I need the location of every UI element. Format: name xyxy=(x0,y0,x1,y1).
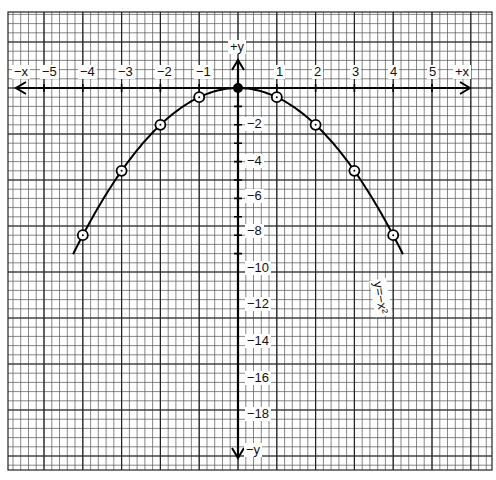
x-tick-label: −3 xyxy=(116,65,135,79)
pos-y-axis-label: +y xyxy=(228,40,246,54)
neg-y-axis-label: −y xyxy=(244,443,262,457)
data-point-center xyxy=(276,96,278,98)
y-tick-label: −18 xyxy=(245,407,271,421)
y-tick-label: −6 xyxy=(245,189,264,203)
x-tick-label: −5 xyxy=(40,65,59,79)
data-point-center xyxy=(353,170,355,172)
x-tick-label: 5 xyxy=(427,65,438,79)
y-tick-label: −16 xyxy=(245,371,271,385)
data-point-center xyxy=(121,170,123,172)
data-point-vertex xyxy=(233,83,243,93)
y-tick-label: −14 xyxy=(245,334,271,348)
x-tick-label: 4 xyxy=(388,65,399,79)
x-tick-label: −4 xyxy=(78,65,97,79)
y-tick-label: −8 xyxy=(245,224,264,238)
data-point-center xyxy=(82,234,84,236)
data-point-center xyxy=(392,234,394,236)
y-tick-label: −2 xyxy=(245,117,264,131)
neg-x-axis-label: −x xyxy=(12,65,30,79)
pos-x-axis-label: +x xyxy=(453,65,471,79)
y-tick-label: −10 xyxy=(245,261,271,275)
x-tick-label: 1 xyxy=(274,65,285,79)
data-point-center xyxy=(198,96,200,98)
data-point-center xyxy=(159,124,161,126)
x-tick-label: 2 xyxy=(312,65,323,79)
x-tick-label: −1 xyxy=(194,65,213,79)
x-tick-label: 3 xyxy=(350,65,361,79)
data-point-center xyxy=(315,124,317,126)
graph-paper-chart: −x +x +y −y −5 −4 −3 −2 −1 1 2 3 4 5 −2 … xyxy=(0,0,496,480)
y-tick-label: −12 xyxy=(245,297,271,311)
y-tick-label: −4 xyxy=(245,154,264,168)
x-tick-label: −2 xyxy=(155,65,174,79)
